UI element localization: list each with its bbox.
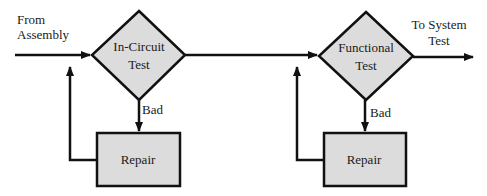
input-label-line-2: Assembly: [17, 27, 69, 42]
functional-test-label-line-2: Test: [355, 58, 376, 73]
in-circuit-test-diamond: [92, 11, 185, 100]
feedback-arrow-1: [70, 67, 97, 160]
in-circuit-test-label-line-2: Test: [128, 57, 149, 72]
flowchart-canvas: From Assembly In-Circuit Test Bad Repair…: [0, 0, 487, 196]
bad-label-2: Bad: [370, 105, 391, 120]
bad-label-1: Bad: [142, 102, 163, 117]
in-circuit-test-label-line-1: In-Circuit: [113, 39, 164, 54]
repair-label-2: Repair: [347, 152, 382, 167]
output-label-line-1: To System: [411, 17, 466, 32]
repair-label-1: Repair: [121, 152, 156, 167]
feedback-arrow-2: [297, 67, 324, 160]
functional-test-label-line-1: Functional: [338, 40, 394, 55]
output-label-line-2: Test: [428, 33, 449, 48]
functional-test-diamond: [319, 12, 413, 100]
input-label-line-1: From: [17, 12, 45, 27]
